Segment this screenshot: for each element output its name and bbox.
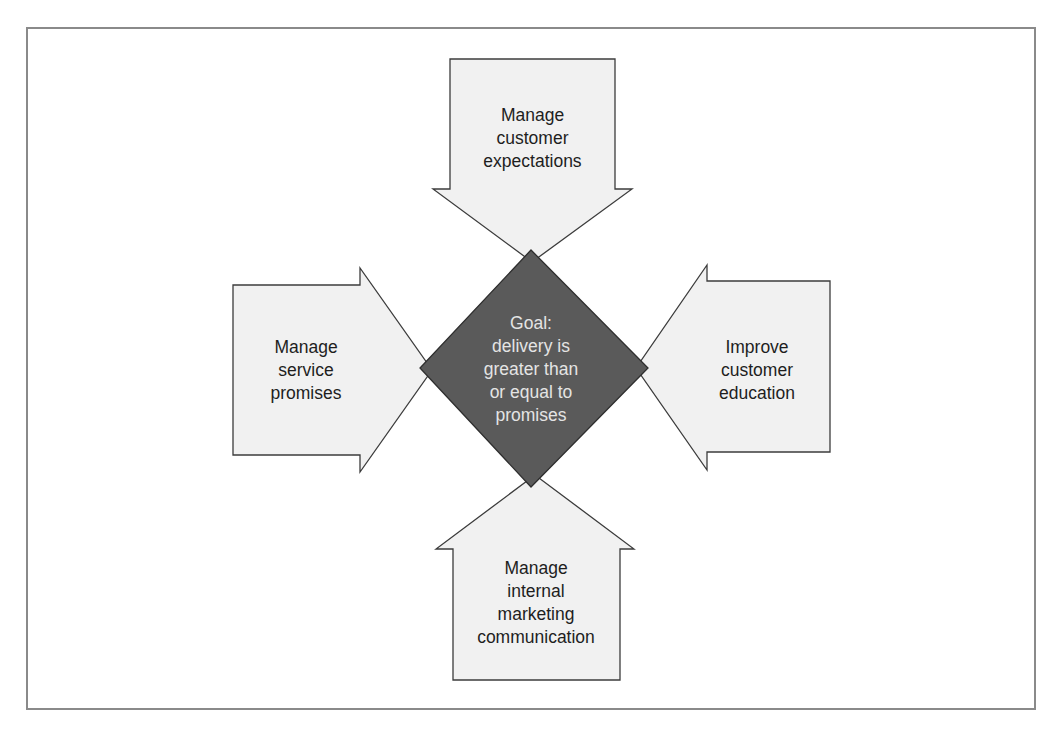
- label-line: Manage: [450, 104, 615, 127]
- label-line: Improve: [692, 336, 822, 359]
- goal-line: delivery is: [466, 335, 596, 358]
- label-line: customer: [450, 127, 615, 150]
- label-line: customer: [692, 359, 822, 382]
- goal-line: Goal:: [466, 312, 596, 335]
- label-line: promises: [238, 382, 374, 405]
- label-line: Manage: [238, 336, 374, 359]
- label-line: expectations: [450, 150, 615, 173]
- goal-line: greater than: [466, 358, 596, 381]
- label-right-arrow: Improve customer education: [692, 336, 822, 405]
- label-left-arrow: Manage service promises: [238, 336, 374, 405]
- label-line: education: [692, 382, 822, 405]
- goal-line: or equal to: [466, 381, 596, 404]
- goal-line: promises: [466, 404, 596, 427]
- label-line: service: [238, 359, 374, 382]
- label-bottom-arrow: Manage internal marketing communication: [450, 557, 622, 649]
- label-line: communication: [450, 626, 622, 649]
- label-line: marketing: [450, 603, 622, 626]
- label-top-arrow: Manage customer expectations: [450, 104, 615, 173]
- label-line: internal: [450, 580, 622, 603]
- label-line: Manage: [450, 557, 622, 580]
- goal-label: Goal: delivery is greater than or equal …: [466, 312, 596, 427]
